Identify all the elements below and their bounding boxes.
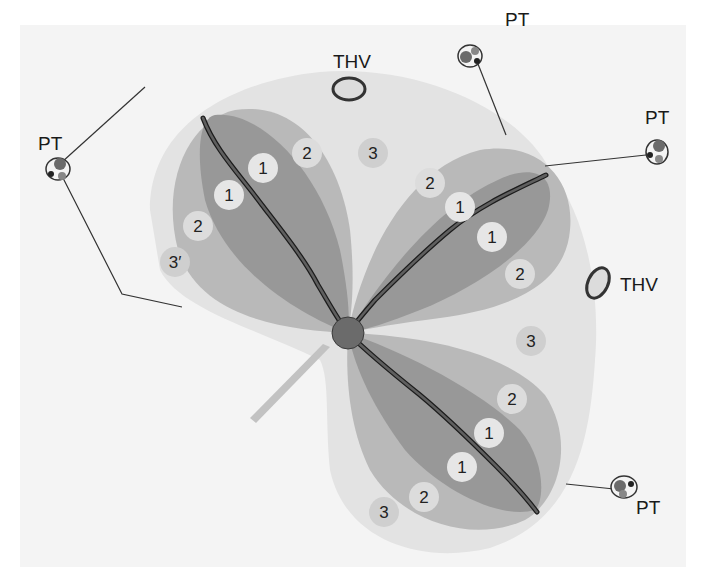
connector-pt-bottom xyxy=(566,484,614,489)
portal-tract-icon xyxy=(458,45,482,67)
pt-bottom: PT xyxy=(611,476,661,518)
pt-left-label: PT xyxy=(38,133,63,154)
badge-zone-3: 3 xyxy=(516,326,546,356)
thv-right-label: THV xyxy=(620,274,658,295)
portal-tract-icon xyxy=(46,158,70,180)
badge-zone-1: 1 xyxy=(447,452,477,482)
svg-text:3: 3 xyxy=(526,332,535,351)
pt-bottom-label: PT xyxy=(636,497,661,518)
center-node xyxy=(332,317,364,349)
svg-text:2: 2 xyxy=(425,174,434,193)
thv-top-label: THV xyxy=(333,51,371,72)
svg-text:1: 1 xyxy=(224,186,233,205)
portal-tract-icon xyxy=(611,476,637,498)
badge-zone-3: 3 xyxy=(369,497,399,527)
svg-text:1: 1 xyxy=(455,198,464,217)
connector-pt-left-upper xyxy=(62,87,145,162)
badge-zone-2: 2 xyxy=(409,482,439,512)
badge-zone-1: 1 xyxy=(477,222,507,252)
badge-zone-1: 1 xyxy=(474,418,504,448)
thv-vessel-icon xyxy=(333,78,365,100)
pt-left: PT xyxy=(38,133,70,180)
badge-zone-2: 2 xyxy=(497,384,527,414)
portal-tract-icon xyxy=(646,140,668,164)
pt-top-label: PT xyxy=(505,9,530,30)
stem xyxy=(250,344,330,423)
svg-text:1: 1 xyxy=(258,159,267,178)
badge-zone-3-prime: 3′ xyxy=(160,247,190,277)
badge-zone-2: 2 xyxy=(292,138,322,168)
svg-text:3: 3 xyxy=(379,503,388,522)
lobule-diagram: 1 1 2 2 3′ 3 2 1 1 2 3 2 1 1 2 3 THV THV… xyxy=(0,0,703,577)
svg-text:1: 1 xyxy=(487,228,496,247)
badge-zone-1: 1 xyxy=(214,180,244,210)
pt-right: PT xyxy=(645,107,670,164)
svg-text:3: 3 xyxy=(368,144,377,163)
svg-text:3′: 3′ xyxy=(169,253,182,272)
badge-zone-2: 2 xyxy=(415,168,445,198)
badge-zone-2: 2 xyxy=(505,259,535,289)
pt-top: PT xyxy=(458,9,530,67)
svg-text:1: 1 xyxy=(484,424,493,443)
svg-text:2: 2 xyxy=(515,265,524,284)
connector-pt-right xyxy=(545,155,646,166)
svg-text:2: 2 xyxy=(302,144,311,163)
badge-zone-2: 2 xyxy=(183,211,213,241)
pt-right-label: PT xyxy=(645,107,670,128)
thv-right: THV xyxy=(582,264,658,301)
svg-text:2: 2 xyxy=(507,390,516,409)
svg-text:1: 1 xyxy=(457,458,466,477)
badge-zone-1: 1 xyxy=(248,153,278,183)
badge-zone-3: 3 xyxy=(358,138,388,168)
badge-zone-1: 1 xyxy=(445,192,475,222)
svg-text:2: 2 xyxy=(419,488,428,507)
svg-text:2: 2 xyxy=(193,217,202,236)
